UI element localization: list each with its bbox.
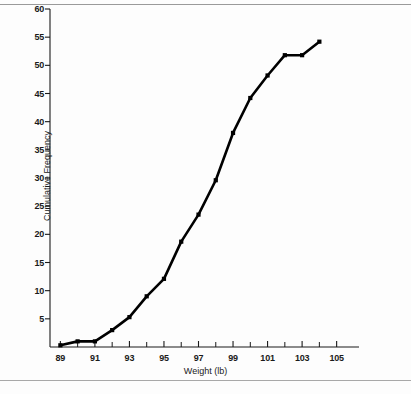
y-axis-tick-label: 35	[20, 145, 44, 155]
y-axis-tick-label: 50	[20, 60, 44, 70]
ogive-chart-svg	[0, 0, 411, 394]
x-axis-tick-label: 95	[159, 353, 169, 363]
data-point-marker	[58, 343, 62, 347]
data-point-marker	[265, 73, 269, 77]
data-point-marker	[196, 213, 200, 217]
page-rule-bottom	[0, 380, 411, 381]
y-axis-tick-label: 30	[20, 173, 44, 183]
figure-caption	[0, 386, 411, 394]
y-axis-tick-label: 20	[20, 229, 44, 239]
chart-plot-area: 51015202530354045505560 8991939597991011…	[0, 0, 411, 394]
y-axis-tick-label: 45	[20, 89, 44, 99]
data-point-marker	[110, 328, 114, 332]
x-axis-major-ticks	[60, 341, 336, 347]
data-point-marker	[231, 131, 235, 135]
data-point-marker	[248, 96, 252, 100]
data-point-marker	[300, 53, 304, 57]
y-axis-tick-label: 5	[20, 314, 44, 324]
data-point-marker	[162, 277, 166, 281]
y-axis-tick-label: 55	[20, 32, 44, 42]
data-point-markers	[58, 40, 321, 348]
x-axis-tick-label: 93	[125, 353, 135, 363]
data-point-marker	[283, 53, 287, 57]
data-point-marker	[76, 339, 80, 343]
y-axis-tick-label: 25	[20, 201, 44, 211]
x-axis-tick-label: 101	[260, 353, 274, 363]
x-axis-tick-label: 91	[90, 353, 100, 363]
data-point-marker	[317, 40, 321, 44]
data-point-marker	[127, 315, 131, 319]
data-point-marker	[214, 178, 218, 182]
y-axis-tick-label: 15	[20, 258, 44, 268]
x-axis-tick-label: 103	[295, 353, 309, 363]
x-axis-tick-label: 97	[194, 353, 204, 363]
y-axis-tick-label: 40	[20, 117, 44, 127]
axes-group	[45, 9, 359, 347]
x-axis-tick-label: 89	[56, 353, 66, 363]
y-axis-tick-label: 60	[20, 4, 44, 14]
y-axis-title: Cumulative Frequency	[42, 131, 52, 221]
y-axis-tick-label: 10	[20, 286, 44, 296]
x-axis-tick-label: 99	[228, 353, 238, 363]
figure-root: 51015202530354045505560 8991939597991011…	[0, 0, 411, 394]
x-axis-title: Weight (lb)	[0, 366, 411, 376]
data-series-group	[58, 40, 321, 348]
cumulative-frequency-line	[60, 42, 319, 346]
data-point-marker	[179, 240, 183, 244]
x-axis-tick-label: 105	[329, 353, 343, 363]
data-point-marker	[145, 294, 149, 298]
data-point-marker	[93, 339, 97, 343]
